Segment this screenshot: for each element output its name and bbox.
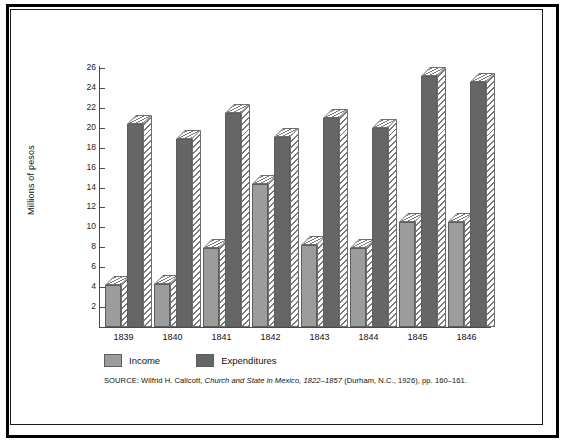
bar-front-face	[127, 124, 143, 327]
bar-income-1845	[399, 222, 415, 327]
y-tick-label-holder: 4	[72, 282, 96, 292]
bar-front-face	[252, 184, 268, 327]
y-tick-label: 16	[74, 163, 96, 172]
y-tick-label-holder: 10	[72, 222, 96, 232]
y-tick-mark	[99, 128, 105, 129]
source-prefix: SOURCE:	[104, 376, 139, 385]
bar-side-face	[437, 67, 446, 327]
y-tick-label-holder: 18	[72, 143, 96, 153]
bar-chart: Millions of pesos 2468101214161820222426…	[0, 0, 565, 446]
bar-income-1844	[350, 248, 366, 327]
bar-front-face	[154, 284, 170, 327]
x-tick-label-1842: 1842	[247, 332, 295, 342]
bar-expenditures-1839	[127, 124, 143, 327]
source-note: SOURCE: Wilfrid H. Callcott, Church and …	[104, 376, 524, 385]
bar-front-face	[470, 82, 486, 327]
bar-income-1843	[301, 245, 317, 327]
y-tick-label-holder: 16	[72, 163, 96, 173]
y-tick-mark	[99, 108, 105, 109]
bar-income-1846	[448, 222, 464, 327]
y-tick-label: 4	[74, 282, 96, 291]
legend-swatch-expenditures	[196, 354, 214, 367]
y-tick-mark	[99, 168, 105, 169]
y-tick-mark	[99, 247, 105, 248]
y-tick-label-holder: 6	[72, 262, 96, 272]
bar-expenditures-1845	[421, 76, 437, 327]
bar-side-face	[143, 115, 152, 327]
y-tick-label: 22	[74, 103, 96, 112]
y-tick-mark	[99, 267, 105, 268]
y-tick-label-holder: 8	[72, 242, 96, 252]
legend-label-income: Income	[129, 355, 160, 366]
bar-front-face	[350, 248, 366, 327]
x-tick-label-1841: 1841	[198, 332, 246, 342]
source-author: Wilfrid H. Callcott,	[139, 376, 205, 385]
bar-income-1839	[105, 285, 121, 327]
bar-income-1840	[154, 284, 170, 327]
y-tick-mark	[99, 88, 105, 89]
y-tick-label: 14	[74, 183, 96, 192]
y-tick-label-holder: 24	[72, 83, 96, 93]
x-tick-label-1844: 1844	[345, 332, 393, 342]
bar-income-1841	[203, 248, 219, 327]
y-tick-mark	[99, 148, 105, 149]
x-tick-label-1845: 1845	[394, 332, 442, 342]
y-tick-label: 24	[74, 83, 96, 92]
y-tick-label-holder: 20	[72, 123, 96, 133]
bar-front-face	[105, 285, 121, 327]
legend-swatch-income	[104, 354, 122, 367]
x-tick-label-1846: 1846	[443, 332, 491, 342]
y-tick-label: 2	[74, 302, 96, 311]
bar-front-face	[176, 139, 192, 327]
legend-item-income: Income	[104, 354, 160, 367]
y-tick-label: 10	[74, 222, 96, 231]
legend-item-expenditures: Expenditures	[196, 354, 276, 367]
y-axis-line	[99, 66, 100, 328]
chart-legend: Income Expenditures	[104, 354, 277, 367]
y-tick-label-holder: 12	[72, 202, 96, 212]
bar-front-face	[372, 128, 388, 327]
y-tick-label: 26	[74, 63, 96, 72]
x-axis-line	[99, 327, 491, 328]
y-tick-mark	[99, 188, 105, 189]
bar-expenditures-1844	[372, 128, 388, 327]
x-tick-label-1843: 1843	[296, 332, 344, 342]
y-tick-label: 6	[74, 262, 96, 271]
y-tick-label: 20	[74, 123, 96, 132]
y-axis-label: Millions of pesos	[26, 105, 36, 255]
bar-income-1842	[252, 184, 268, 327]
bar-front-face	[399, 222, 415, 327]
y-tick-mark	[99, 68, 105, 69]
y-tick-label-holder: 2	[72, 302, 96, 312]
bar-side-face	[486, 73, 495, 327]
bar-front-face	[323, 118, 339, 327]
x-tick-label-1839: 1839	[100, 332, 148, 342]
y-tick-label-holder: 14	[72, 183, 96, 193]
source-title: Church and State in Mexico, 1822–1857	[205, 376, 342, 385]
bar-side-face	[290, 128, 299, 327]
bar-expenditures-1842	[274, 137, 290, 327]
bar-side-face	[339, 109, 348, 327]
y-tick-mark	[99, 207, 105, 208]
bar-side-face	[388, 119, 397, 327]
bar-front-face	[225, 113, 241, 327]
bar-front-face	[421, 76, 437, 327]
bar-expenditures-1843	[323, 118, 339, 327]
source-rest: (Durham, N.C., 1926), pp. 160–161.	[342, 376, 467, 385]
bar-expenditures-1841	[225, 113, 241, 327]
y-tick-label: 18	[74, 143, 96, 152]
bar-front-face	[301, 245, 317, 327]
bar-expenditures-1846	[470, 82, 486, 327]
y-tick-label: 8	[74, 242, 96, 251]
x-tick-label-1840: 1840	[149, 332, 197, 342]
y-tick-label: 12	[74, 202, 96, 211]
y-tick-label-holder: 22	[72, 103, 96, 113]
bar-side-face	[241, 104, 250, 327]
bar-side-face	[192, 130, 201, 327]
bar-expenditures-1840	[176, 139, 192, 327]
bar-front-face	[203, 248, 219, 327]
y-tick-label-holder: 26	[72, 63, 96, 73]
bar-front-face	[274, 137, 290, 327]
legend-label-expenditures: Expenditures	[221, 355, 276, 366]
bar-front-face	[448, 222, 464, 327]
